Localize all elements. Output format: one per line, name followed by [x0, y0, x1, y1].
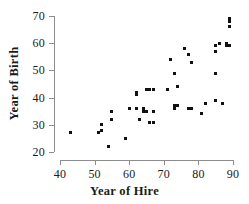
y-axis-tick-label: 50 — [19, 64, 45, 76]
data-point — [100, 129, 103, 132]
data-point — [204, 102, 207, 105]
data-point — [187, 53, 190, 56]
x-axis-tick — [198, 160, 199, 165]
data-point — [135, 107, 138, 110]
data-point — [218, 42, 221, 45]
data-point — [138, 118, 141, 121]
data-point — [176, 85, 179, 88]
y-axis-tick — [49, 152, 54, 153]
data-point — [173, 72, 176, 75]
data-point — [190, 61, 193, 64]
data-point — [176, 104, 179, 107]
y-axis-tick-label: 30 — [19, 119, 45, 131]
data-point — [228, 17, 231, 20]
data-point — [228, 25, 231, 28]
data-point — [214, 72, 217, 75]
x-axis-tick — [164, 160, 165, 165]
data-point — [152, 110, 155, 113]
y-axis-tick-label: 40 — [19, 92, 45, 104]
data-point — [221, 102, 224, 105]
y-axis-tick — [49, 16, 54, 17]
x-axis-tick-label: 70 — [151, 168, 177, 180]
data-point — [69, 131, 72, 134]
x-axis-tick-label: 90 — [220, 168, 246, 180]
y-axis-tick — [49, 43, 54, 44]
data-point — [97, 131, 100, 134]
data-point — [166, 88, 169, 91]
data-point — [152, 121, 155, 124]
data-point — [100, 123, 103, 126]
data-point — [152, 88, 155, 91]
y-axis-title: Year of Birth — [7, 24, 22, 144]
data-point — [200, 112, 203, 115]
y-axis-tick — [49, 98, 54, 99]
data-point — [107, 145, 110, 148]
data-point — [228, 20, 231, 23]
x-axis-tick-label: 80 — [185, 168, 211, 180]
plot-area — [60, 16, 233, 152]
data-point — [128, 107, 131, 110]
x-axis-tick — [60, 160, 61, 165]
data-point — [145, 110, 148, 113]
data-point — [110, 118, 113, 121]
data-point — [169, 58, 172, 61]
y-axis-line — [54, 16, 55, 152]
y-axis-tick — [49, 125, 54, 126]
x-axis-tick — [233, 160, 234, 165]
data-point — [214, 99, 217, 102]
data-point — [135, 93, 138, 96]
scatter-plot-figure: 203040506070 405060708090 Year of Birth … — [0, 0, 249, 204]
x-axis-tick — [95, 160, 96, 165]
data-point — [190, 107, 193, 110]
y-axis-tick-label: 20 — [19, 146, 45, 158]
x-axis-tick-label: 50 — [82, 168, 108, 180]
data-point — [228, 44, 231, 47]
data-point — [110, 110, 113, 113]
x-axis-title: Year of Hire — [0, 184, 249, 199]
y-axis-tick — [49, 70, 54, 71]
data-point — [183, 47, 186, 50]
x-axis-tick-label: 60 — [116, 168, 142, 180]
data-point — [124, 137, 127, 140]
x-axis-line — [60, 160, 233, 161]
data-point — [214, 44, 217, 47]
y-axis-tick-label: 60 — [19, 37, 45, 49]
x-axis-tick — [129, 160, 130, 165]
data-point — [214, 50, 217, 53]
y-axis-tick-label: 70 — [19, 10, 45, 22]
x-axis-tick-label: 40 — [47, 168, 73, 180]
data-point — [173, 107, 176, 110]
